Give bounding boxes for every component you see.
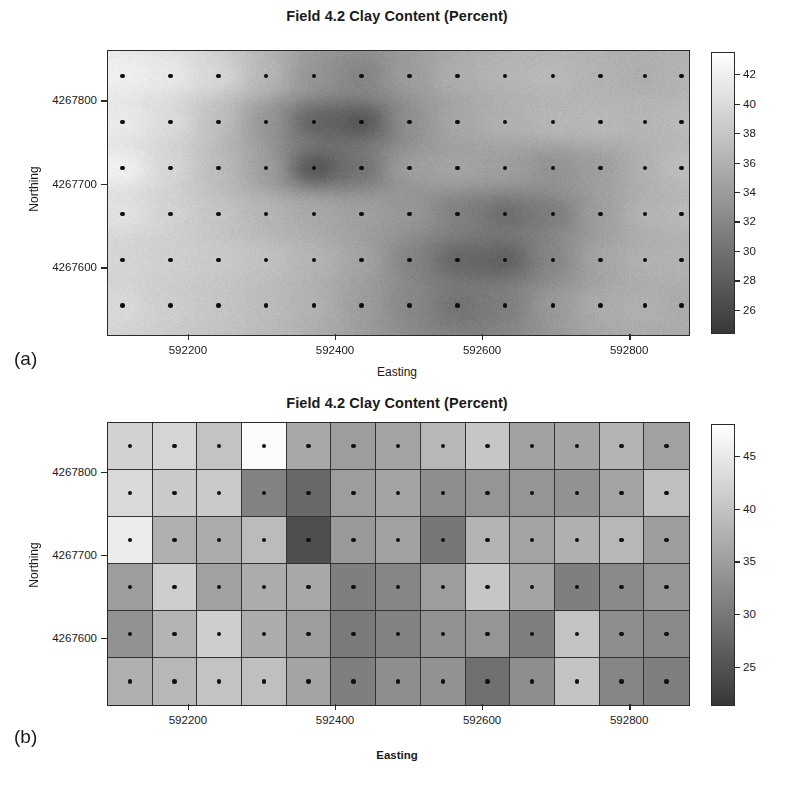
grid-cell <box>242 470 287 517</box>
colorbar-gradient <box>711 424 735 706</box>
sample-point <box>455 303 460 308</box>
grid-cell <box>600 658 645 705</box>
panel-b-tag: (b) <box>14 726 37 748</box>
y-axis-tick <box>101 267 107 268</box>
x-axis-tick <box>188 704 189 710</box>
grid-cell <box>153 517 198 564</box>
sample-point <box>679 166 684 171</box>
grid-cell <box>376 517 421 564</box>
grid-cell <box>600 423 645 470</box>
colorbar-tick <box>734 74 740 75</box>
grid-cell <box>644 517 689 564</box>
sample-point <box>168 120 173 125</box>
grid-cell <box>197 611 242 658</box>
grid-cell <box>555 517 600 564</box>
grid-cell <box>331 517 376 564</box>
colorbar-tick-label: 36 <box>743 157 756 169</box>
x-axis-tick <box>629 704 630 710</box>
grid-cell <box>108 517 153 564</box>
colorbar-tick <box>734 561 740 562</box>
grid-cell <box>287 658 332 705</box>
grid-cell <box>421 658 466 705</box>
sample-point <box>120 303 125 308</box>
grid-cell <box>376 658 421 705</box>
grid-cell <box>242 517 287 564</box>
x-axis-tick-label: 592800 <box>610 344 648 356</box>
grid-cell <box>466 423 511 470</box>
grid-cell <box>555 658 600 705</box>
grid-cell <box>376 470 421 517</box>
panel-b-plot-area <box>107 422 690 706</box>
grid-cell <box>510 658 555 705</box>
grid-cell <box>108 611 153 658</box>
panel-a-title: Field 4.2 Clay Content (Percent) <box>0 8 794 24</box>
colorbar-tick <box>734 509 740 510</box>
sample-point <box>168 74 173 79</box>
grid-cell <box>466 564 511 611</box>
grid-cell <box>331 658 376 705</box>
colorbar-tick <box>734 104 740 105</box>
grid-cell <box>108 423 153 470</box>
panel-a-plot-area <box>107 50 690 336</box>
grid-cell <box>153 611 198 658</box>
colorbar-tick-label: 26 <box>743 304 756 316</box>
panel-b-title: Field 4.2 Clay Content (Percent) <box>0 395 794 411</box>
sample-point <box>407 258 412 263</box>
sample-point <box>120 212 125 217</box>
colorbar-tick-label: 42 <box>743 68 756 80</box>
grid-cell <box>555 611 600 658</box>
grid-cell <box>466 470 511 517</box>
panel-b-yaxis-title: Northing <box>27 525 41 605</box>
sample-point <box>455 166 460 171</box>
grid-cell <box>555 564 600 611</box>
grid-cell <box>197 658 242 705</box>
grid-cell <box>600 611 645 658</box>
grid-cell <box>287 611 332 658</box>
sample-point <box>168 166 173 171</box>
grid-cell <box>555 423 600 470</box>
grid-cell <box>466 611 511 658</box>
sample-point <box>216 212 221 217</box>
grid-cell <box>197 564 242 611</box>
grid-cell <box>644 658 689 705</box>
colorbar-tick-label: 25 <box>743 661 756 673</box>
interpolated-surface <box>108 51 689 335</box>
colorbar-tick-label: 34 <box>743 186 756 198</box>
sample-point <box>216 166 221 171</box>
colorbar-tick <box>734 280 740 281</box>
colorbar-tick <box>734 192 740 193</box>
x-axis-tick-label: 592200 <box>169 714 207 726</box>
colorbar-tick-label: 40 <box>743 503 756 515</box>
grid-cell <box>287 470 332 517</box>
sample-point <box>455 258 460 263</box>
grid-cell <box>421 564 466 611</box>
x-axis-tick <box>335 704 336 710</box>
colorbar-tick-label: 30 <box>743 608 756 620</box>
grid-cell <box>510 517 555 564</box>
sample-point <box>455 74 460 79</box>
y-axis-tick <box>101 184 107 185</box>
grid-cell <box>421 611 466 658</box>
sample-point <box>407 303 412 308</box>
grid-cell <box>466 517 511 564</box>
grid-cell <box>197 423 242 470</box>
grid-cell <box>555 470 600 517</box>
colorbar-tick-label: 45 <box>743 450 756 462</box>
grid-cell <box>510 423 555 470</box>
grid-cell <box>510 611 555 658</box>
colorbar-tick <box>734 667 740 668</box>
x-axis-tick <box>482 704 483 710</box>
x-axis-tick-label: 592600 <box>463 344 501 356</box>
raster-cell-grid <box>108 423 689 705</box>
sample-point <box>168 212 173 217</box>
grid-cell <box>242 611 287 658</box>
sample-point <box>359 258 364 263</box>
panel-a-tag: (a) <box>14 348 37 370</box>
grid-cell <box>197 517 242 564</box>
sample-point <box>168 303 173 308</box>
sample-point <box>168 258 173 263</box>
grid-cell <box>331 423 376 470</box>
panel-b-xaxis-title: Easting <box>0 749 794 761</box>
x-axis-tick-label: 592400 <box>316 344 354 356</box>
grid-cell <box>242 423 287 470</box>
